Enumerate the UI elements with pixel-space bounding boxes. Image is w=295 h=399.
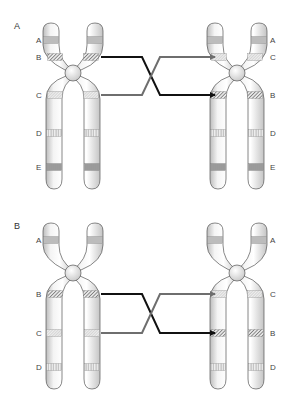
band-c [84, 92, 99, 99]
centromere [65, 65, 81, 81]
band-d [47, 364, 62, 371]
band-label: C [36, 91, 42, 100]
band-label: A [270, 36, 276, 45]
band-d [47, 130, 62, 137]
chromosome-original: ABCDE [36, 23, 103, 189]
band-label: B [36, 53, 41, 62]
inversion-arrows [101, 294, 215, 333]
panel-label: B [14, 221, 20, 231]
band-d [249, 364, 264, 371]
band-c [48, 92, 63, 99]
band-c [85, 330, 100, 337]
chromatid-arm [73, 223, 103, 270]
band-label: B [270, 329, 275, 338]
centromere [229, 265, 245, 281]
band-b [83, 54, 98, 61]
band-d [211, 130, 226, 137]
band-b [48, 54, 63, 61]
band-d [249, 130, 264, 137]
band-label: D [36, 363, 42, 372]
chromosome-original: ABCD [36, 223, 103, 389]
centromere [65, 265, 81, 281]
chromatid-arm [237, 23, 267, 70]
band-label: A [270, 236, 276, 245]
band-d [211, 364, 226, 371]
band-label: E [36, 163, 41, 172]
chromosome-inversion-diagram: AABCDEACBDEBABCDACBD [0, 0, 295, 399]
band-a [44, 237, 59, 244]
band-label: C [36, 329, 42, 338]
band-label: A [36, 36, 42, 45]
band-a [88, 37, 103, 44]
band-b [248, 92, 263, 99]
band-e [249, 164, 264, 171]
panel-label: A [14, 21, 20, 31]
chromatid-arm [207, 23, 237, 70]
band-e [211, 164, 226, 171]
panel-a: AABCDEACBDE [14, 21, 276, 189]
band-a [252, 237, 267, 244]
band-e [85, 164, 100, 171]
band-c [47, 330, 62, 337]
band-b [83, 291, 98, 298]
inversion-arrows [101, 57, 215, 95]
band-a [252, 37, 267, 44]
centromere [229, 65, 245, 81]
band-label: C [270, 53, 276, 62]
chromatid-arm [207, 223, 237, 270]
band-label: D [36, 129, 42, 138]
chromosome-inverted: ACBDE [207, 23, 276, 189]
band-b [249, 330, 264, 337]
band-b [48, 291, 63, 298]
chromatid-arm [237, 223, 267, 270]
band-label: B [36, 290, 41, 299]
band-label: C [270, 290, 276, 299]
panel-b: BABCDACBD [14, 221, 276, 389]
band-label: A [36, 236, 42, 245]
band-c [247, 291, 262, 298]
band-a [208, 237, 223, 244]
band-a [88, 237, 103, 244]
chromatid-arm [43, 23, 73, 70]
band-e [47, 164, 62, 171]
band-c [247, 54, 262, 61]
chromatid-arm [73, 23, 103, 70]
band-a [44, 37, 59, 44]
band-label: E [270, 163, 275, 172]
band-label: D [270, 363, 276, 372]
band-label: B [270, 91, 275, 100]
diagram-canvas: AABCDEACBDEBABCDACBD [0, 0, 295, 399]
chromatid-arm [43, 223, 73, 270]
band-d [85, 130, 100, 137]
chromosome-inverted: ACBD [207, 223, 276, 389]
band-a [208, 37, 223, 44]
band-label: D [270, 129, 276, 138]
band-d [85, 364, 100, 371]
